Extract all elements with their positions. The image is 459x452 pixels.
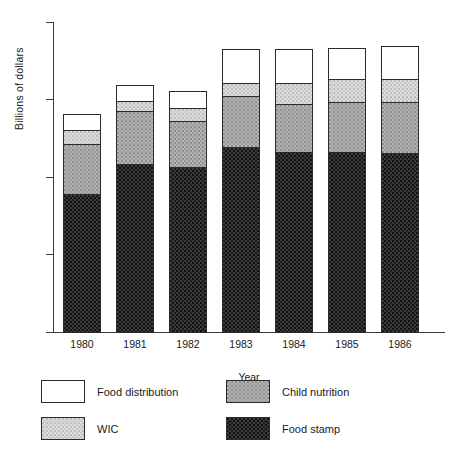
segment-1986-food-stamp[interactable] [381, 153, 419, 333]
legend-item-child-nutrition[interactable]: Child nutrition [226, 380, 349, 403]
segment-1980-food-stamp[interactable] [63, 194, 101, 334]
segment-1981-food-distribution[interactable] [116, 85, 154, 101]
legend-label-wic: WIC [97, 423, 118, 435]
segment-1980-food-distribution[interactable] [63, 114, 101, 130]
segment-1985-food-stamp[interactable] [328, 152, 366, 333]
legend: Food distribution Child nutrition WIC Fo… [41, 380, 441, 442]
segment-1982-child-nutrition[interactable] [169, 121, 207, 168]
segment-1984-child-nutrition[interactable] [275, 104, 313, 152]
segment-1983-wic[interactable] [222, 83, 260, 95]
segment-1984-food-stamp[interactable] [275, 152, 313, 333]
segment-1983-food-stamp[interactable] [222, 147, 260, 333]
legend-swatch-wic [41, 417, 85, 440]
bar-1986[interactable] [381, 46, 419, 333]
bar-1985[interactable] [328, 48, 366, 333]
segment-1982-food-distribution[interactable] [169, 91, 207, 108]
legend-swatch-food-stamp [226, 417, 270, 440]
segment-1981-wic[interactable] [116, 101, 154, 112]
x-tick-label-1980: 1980 [63, 338, 101, 350]
y-axis-title: Billions of dollars [13, 47, 25, 130]
legend-swatch-food-distribution [41, 380, 85, 403]
x-tick-label-1985: 1985 [328, 338, 366, 350]
segment-1983-food-distribution[interactable] [222, 49, 260, 83]
segment-1982-food-stamp[interactable] [169, 167, 207, 333]
y-tick-10 [46, 177, 54, 178]
legend-label-food-distribution: Food distribution [97, 386, 178, 398]
x-tick-label-1982: 1982 [169, 338, 207, 350]
segment-1980-child-nutrition[interactable] [63, 144, 101, 194]
segment-1983-child-nutrition[interactable] [222, 96, 260, 147]
segment-1981-food-stamp[interactable] [116, 164, 154, 333]
segment-1984-food-distribution[interactable] [275, 49, 313, 83]
segment-1985-wic[interactable] [328, 79, 366, 102]
segment-1986-food-distribution[interactable] [381, 46, 419, 79]
segment-1985-food-distribution[interactable] [328, 48, 366, 79]
y-tick-20 [46, 22, 54, 23]
bar-1983[interactable] [222, 49, 260, 333]
bar-1980[interactable] [63, 114, 101, 333]
bar-1982[interactable] [169, 91, 207, 333]
plot-area: 20 15 10 5 0 Billions of dollars [53, 22, 445, 334]
x-tick-label-1981: 1981 [116, 338, 154, 350]
legend-label-food-stamp: Food stamp [282, 423, 340, 435]
legend-label-child-nutrition: Child nutrition [282, 386, 349, 398]
y-tick-15 [46, 99, 54, 100]
legend-item-food-distribution[interactable]: Food distribution [41, 380, 178, 403]
x-tick-label-1986: 1986 [381, 338, 419, 350]
x-tick-label-1983: 1983 [222, 338, 260, 350]
segment-1985-child-nutrition[interactable] [328, 102, 366, 152]
segment-1980-wic[interactable] [63, 130, 101, 144]
stacked-bar-chart-figure: 20 15 10 5 0 Billions of dollars [0, 0, 459, 452]
legend-item-food-stamp[interactable]: Food stamp [226, 417, 340, 440]
segment-1986-wic[interactable] [381, 79, 419, 102]
legend-item-wic[interactable]: WIC [41, 417, 118, 440]
legend-swatch-child-nutrition [226, 380, 270, 403]
segment-1986-child-nutrition[interactable] [381, 102, 419, 153]
segment-1984-wic[interactable] [275, 83, 313, 103]
segment-1981-child-nutrition[interactable] [116, 111, 154, 164]
y-tick-0 [46, 332, 54, 333]
y-tick-5 [46, 254, 54, 255]
segment-1982-wic[interactable] [169, 108, 207, 120]
x-tick-label-1984: 1984 [275, 338, 313, 350]
bar-1981[interactable] [116, 85, 154, 333]
bar-1984[interactable] [275, 49, 313, 333]
